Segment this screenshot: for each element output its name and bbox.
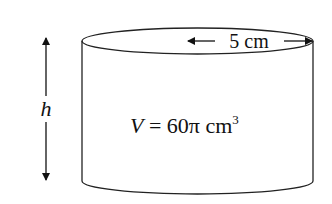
cylinder-diagram: 5 cm h V = 60π cm3	[0, 0, 332, 204]
radius-label: 5 cm	[229, 30, 269, 52]
volume-equation: = 60π cm	[143, 113, 232, 138]
cylinder-bottom	[82, 181, 313, 194]
volume-label: V = 60π cm3	[130, 112, 239, 138]
height-label: h	[41, 96, 52, 121]
volume-exponent: 3	[232, 112, 239, 127]
